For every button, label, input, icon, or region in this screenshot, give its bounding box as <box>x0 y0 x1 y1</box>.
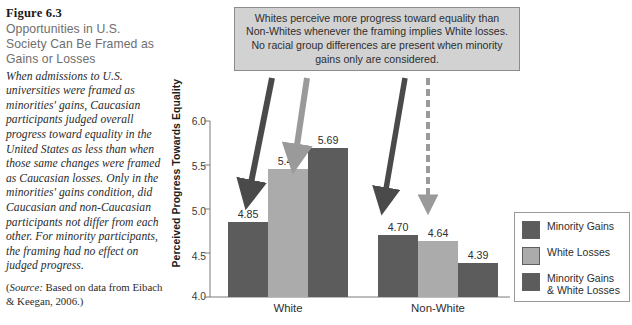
legend-swatch-white-losses <box>522 247 540 265</box>
x-tick-label-white: White <box>208 302 368 314</box>
chart-legend: Minority Gains White Losses Minority Gai… <box>514 212 630 302</box>
figure-caption-column: Figure 6.3 Opportunities in U.S. Society… <box>6 6 164 319</box>
x-tick-label-non-white: Non-White <box>358 302 518 314</box>
source-label: Source: <box>10 281 43 293</box>
plot-area: 4.85 5.45 5.69 4.70 4.64 4.39 <box>210 76 510 297</box>
bar-white-both <box>308 148 348 297</box>
bar-value-label: 4.85 <box>228 208 268 220</box>
bar-value-label: 5.45 <box>268 155 308 167</box>
bar-value-label: 4.70 <box>378 221 418 233</box>
legend-item-white-losses: White Losses <box>522 246 623 265</box>
legend-item-both: Minority Gains & White Losses <box>522 272 623 297</box>
bar-nonwhite-both <box>458 263 498 297</box>
legend-item-minority-gains: Minority Gains <box>522 220 623 239</box>
bar-white-losses <box>268 169 308 297</box>
figure-number: Figure 6.3 <box>6 6 164 21</box>
legend-swatch-both <box>522 273 540 291</box>
legend-swatch-minority-gains <box>522 221 540 239</box>
bar-nonwhite-minority-gains <box>378 235 418 297</box>
bar-value-label: 5.69 <box>308 134 348 146</box>
callout-text: Whites perceive more progress toward equ… <box>235 12 519 66</box>
bar-value-label: 4.64 <box>418 227 458 239</box>
legend-label: Minority Gains <box>547 220 614 232</box>
legend-label: Minority Gains & White Losses <box>547 272 623 297</box>
legend-label: White Losses <box>547 246 610 258</box>
bar-chart: Perceived Progress Towards Equality 6.0 … <box>160 76 512 321</box>
figure-page: Figure 6.3 Opportunities in U.S. Society… <box>0 0 632 325</box>
bar-nonwhite-losses <box>418 241 458 297</box>
bar-value-label: 4.39 <box>458 249 498 261</box>
figure-body-text: When admissions to U.S. universities wer… <box>6 70 164 274</box>
callout-box: Whites perceive more progress toward equ… <box>234 7 520 71</box>
figure-source-line: (Source: Based on data from Eibach & Kee… <box>6 281 164 308</box>
bar-white-minority-gains <box>228 222 268 297</box>
figure-title: Opportunities in U.S. Society Can Be Fra… <box>6 22 164 68</box>
